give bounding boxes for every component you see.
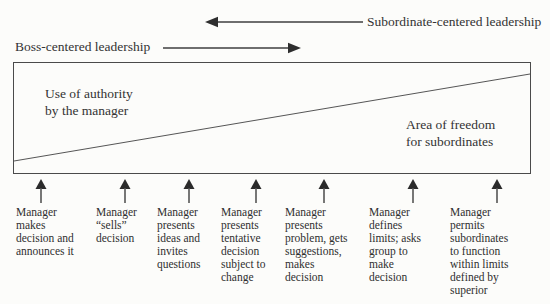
up-arrow-icon bbox=[35, 179, 47, 203]
up-arrow-icon bbox=[491, 179, 503, 203]
boss-centered-label: Boss-centered leadership bbox=[15, 39, 150, 55]
up-arrow-icon bbox=[318, 179, 330, 203]
use-of-authority-label: Use of authority by the manager bbox=[45, 85, 133, 119]
step-label-4: Manager presents tentative decision subj… bbox=[221, 206, 265, 284]
step-label-5: Manager presents problem, gets suggestio… bbox=[285, 206, 348, 284]
up-arrow-icon bbox=[183, 179, 195, 203]
continuum-box: Use of authority by the manager Area of … bbox=[13, 62, 531, 174]
left-arrow-icon bbox=[205, 15, 363, 29]
step-label-1: Manager makes decision and announces it bbox=[16, 206, 74, 258]
step-label-2: Manager “sells” decision bbox=[96, 206, 137, 245]
step-label-3: Manager presents ideas and invites quest… bbox=[157, 206, 200, 271]
up-arrow-icon bbox=[250, 179, 262, 203]
leadership-continuum-diagram: Subordinate-centered leadership Boss-cen… bbox=[0, 0, 550, 304]
right-arrow-icon bbox=[163, 41, 301, 55]
subordinate-centered-label: Subordinate-centered leadership bbox=[367, 14, 541, 30]
up-arrow-icon bbox=[119, 179, 131, 203]
area-of-freedom-label: Area of freedom for subordinates bbox=[406, 116, 495, 150]
up-arrow-icon bbox=[407, 179, 419, 203]
step-label-6: Manager defines limits; asks group to ma… bbox=[369, 206, 421, 284]
step-label-7: Manager permits subordinates to function… bbox=[450, 206, 508, 297]
